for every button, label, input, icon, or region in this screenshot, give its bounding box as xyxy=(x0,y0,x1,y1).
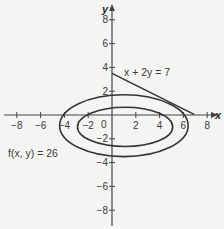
x-tick-label: −8 xyxy=(11,120,23,131)
x-tick-label: −2 xyxy=(82,120,94,131)
level-curve-label: f(x, y) = 26 xyxy=(8,147,58,159)
y-tick-label: −8 xyxy=(97,205,109,216)
x-tick-label: 8 xyxy=(204,120,210,131)
origin-label: 0 xyxy=(101,119,107,130)
y-axis-label: y xyxy=(101,3,109,15)
y-tick-label: −4 xyxy=(97,157,109,168)
y-tick-label: 4 xyxy=(102,62,108,73)
y-tick-label: 8 xyxy=(102,14,108,25)
coordinate-plane: −8−6−4−224688642−2−4−6−8 x y 0 x + 2y = … xyxy=(0,0,224,229)
x-axis-label: x xyxy=(214,109,222,121)
x-tick-label: 2 xyxy=(133,120,139,131)
y-tick-label: −6 xyxy=(97,181,109,192)
x-tick-label: 6 xyxy=(181,120,187,131)
y-tick-label: 6 xyxy=(102,38,108,49)
x-tick-label: −6 xyxy=(35,120,47,131)
y-axis-arrow-icon xyxy=(109,4,115,11)
constraint-line-label: x + 2y = 7 xyxy=(124,66,170,78)
outer-level-curve xyxy=(60,95,189,157)
constraint-line xyxy=(112,73,194,114)
axes: −8−6−4−224688642−2−4−6−8 xyxy=(4,4,218,226)
figure: −8−6−4−224688642−2−4−6−8 x y 0 x + 2y = … xyxy=(0,0,224,229)
x-tick-label: 4 xyxy=(157,120,163,131)
